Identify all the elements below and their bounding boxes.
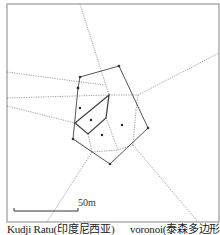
- voronoi-edge: [138, 53, 219, 95]
- site-point: [101, 134, 103, 136]
- voronoi-edge: [92, 150, 118, 152]
- boundary-vertex: [118, 65, 121, 68]
- site-points: [77, 87, 123, 136]
- boundary-vertices: [72, 65, 150, 166]
- voronoi-diagram: [0, 0, 220, 235]
- voronoi-edge: [133, 145, 198, 222]
- site-point: [121, 124, 123, 126]
- voronoi-edge: [80, 4, 109, 95]
- map-frame: [7, 4, 219, 222]
- boundary-vertex: [72, 138, 75, 141]
- site-point: [77, 87, 79, 89]
- boundary-vertex: [147, 127, 150, 130]
- boundary-vertex: [109, 163, 112, 166]
- method-caption: voronoi(泰森多边形): [130, 220, 220, 235]
- voronoi-edge: [7, 106, 75, 123]
- central-cell-polygon: [75, 95, 109, 134]
- voronoi-edges: [7, 4, 219, 222]
- scale-bar: [14, 208, 78, 211]
- boundary-vertex: [79, 76, 82, 79]
- site-point: [90, 119, 92, 121]
- site-point: [79, 107, 81, 109]
- voronoi-edge: [7, 95, 109, 98]
- site-name-caption: Kudji Ratu(印度尼西亚): [7, 220, 115, 235]
- scale-bar-label: 50m: [78, 197, 96, 208]
- voronoi-edge: [106, 118, 118, 150]
